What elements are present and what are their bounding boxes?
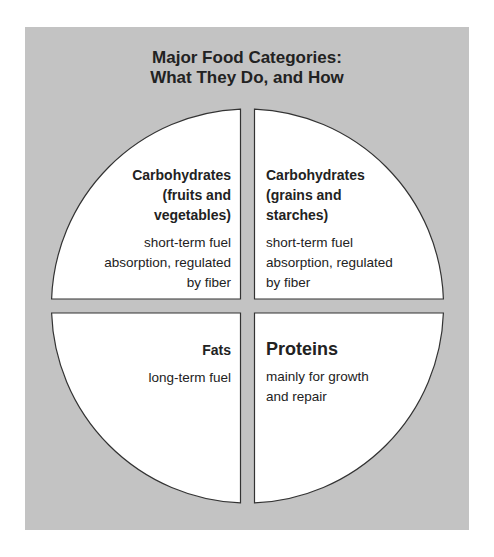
- quadrant-carbohydrates-fruits-vegetables: Carbohydrates (fruits and vegetables) sh…: [104, 165, 231, 293]
- heading-line: (fruits and: [104, 185, 231, 205]
- quadrant-fats: Fats long-term fuel: [148, 340, 231, 388]
- description-line: by fiber: [266, 273, 393, 293]
- description-line: by fiber: [104, 273, 231, 293]
- heading-line: vegetables): [104, 205, 231, 225]
- quadrant-description: short-term fuel absorption, regulated by…: [104, 233, 231, 293]
- quadrant-description: short-term fuel absorption, regulated by…: [266, 233, 393, 293]
- heading-line: starches): [266, 205, 393, 225]
- description-line: and repair: [266, 387, 369, 407]
- heading-line: (grains and: [266, 185, 393, 205]
- heading-line: Carbohydrates: [266, 165, 393, 185]
- quadrant-heading: Carbohydrates (grains and starches): [266, 165, 393, 225]
- description-line: long-term fuel: [148, 368, 231, 388]
- description-line: short-term fuel: [266, 233, 393, 253]
- quadrant-heading: Fats: [148, 340, 231, 360]
- quadrant-carbohydrates-grains-starches: Carbohydrates (grains and starches) shor…: [266, 165, 393, 293]
- quadrant-heading: Proteins: [266, 337, 369, 361]
- description-line: mainly for growth: [266, 367, 369, 387]
- food-categories-pie: [0, 0, 494, 557]
- quadrant-heading: Carbohydrates (fruits and vegetables): [104, 165, 231, 225]
- heading-line: Proteins: [266, 337, 369, 361]
- description-line: absorption, regulated: [104, 253, 231, 273]
- description-line: short-term fuel: [104, 233, 231, 253]
- quadrant-description: long-term fuel: [148, 368, 231, 388]
- quadrant-description: mainly for growth and repair: [266, 367, 369, 407]
- quadrant-proteins: Proteins mainly for growth and repair: [266, 337, 369, 407]
- heading-line: Fats: [148, 340, 231, 360]
- heading-line: Carbohydrates: [104, 165, 231, 185]
- description-line: absorption, regulated: [266, 253, 393, 273]
